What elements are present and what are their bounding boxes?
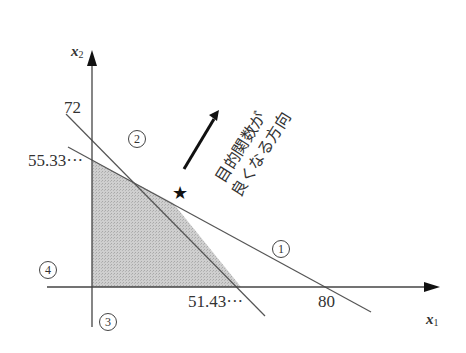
y-axis-arrowhead-icon (87, 50, 97, 66)
x-axis-label: x1 (426, 311, 439, 328)
constraint-label-4: 4 (39, 260, 57, 279)
x-tick-51-43: 51.43··· (188, 292, 243, 312)
constraint-label-2: 2 (128, 129, 146, 148)
objective-direction-annotation: 目的関数が 良くなる方向 (196, 78, 314, 188)
constraint-label-1: 1 (272, 239, 290, 258)
y-tick-55-33: 55.33··· (28, 151, 83, 171)
optimum-star-icon: ★ (172, 182, 188, 203)
x-axis-arrowhead-icon (424, 282, 440, 292)
y-tick-72: 72 (64, 98, 81, 118)
x-tick-80: 80 (318, 292, 335, 312)
constraint-label-3: 3 (99, 312, 117, 331)
y-axis-label: x2 (71, 43, 84, 60)
